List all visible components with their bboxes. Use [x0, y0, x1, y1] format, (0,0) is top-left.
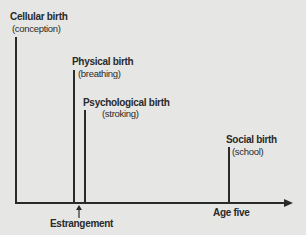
- social-birth-line: [228, 147, 230, 203]
- estrangement-label: Estrangement: [50, 218, 113, 229]
- time-axis: [15, 202, 287, 204]
- cellular-birth-title: Cellular birth: [10, 11, 67, 22]
- cellular-birth-line: [15, 37, 17, 203]
- axis-arrowhead-icon: [284, 198, 296, 208]
- social-birth-title: Social birth: [226, 134, 277, 145]
- psychological-birth-subtitle: (stroking): [102, 108, 139, 119]
- physical-birth-subtitle: (breathing): [78, 68, 121, 79]
- social-birth-subtitle: (school): [232, 146, 263, 157]
- age-five-label: Age five: [213, 207, 250, 218]
- physical-birth-title: Physical birth: [72, 56, 133, 67]
- cellular-birth-subtitle: (conception): [12, 23, 61, 34]
- estrangement-arrow-icon: [75, 205, 83, 219]
- physical-birth-line: [73, 70, 75, 203]
- psychological-birth-line: [84, 110, 86, 203]
- psychological-birth-title: Psychological birth: [83, 97, 170, 108]
